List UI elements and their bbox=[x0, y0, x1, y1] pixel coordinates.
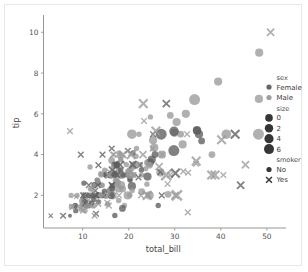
data-point bbox=[68, 193, 73, 198]
data-point bbox=[127, 129, 137, 139]
legend-marker bbox=[266, 85, 271, 90]
x-tick-label: 10 bbox=[78, 232, 88, 241]
data-point bbox=[198, 138, 205, 145]
figure: 1020304050246810 total_billtip sexFemale… bbox=[0, 0, 308, 272]
legend-entry-label[interactable]: Yes bbox=[276, 176, 289, 184]
data-point bbox=[185, 209, 191, 215]
data-point bbox=[143, 173, 151, 181]
data-point bbox=[130, 188, 135, 193]
data-point bbox=[98, 172, 103, 177]
data-point bbox=[222, 129, 232, 139]
data-point bbox=[87, 164, 92, 169]
y-axis-label: tip bbox=[11, 118, 21, 129]
legend-entry-label[interactable]: Male bbox=[277, 94, 294, 102]
legend-marker bbox=[265, 124, 273, 132]
data-point bbox=[146, 162, 153, 169]
data-point bbox=[95, 178, 100, 183]
data-point bbox=[112, 213, 117, 218]
data-point bbox=[182, 110, 190, 118]
data-point bbox=[159, 193, 165, 199]
legend-title: size bbox=[277, 105, 290, 113]
data-point bbox=[214, 78, 222, 86]
data-points bbox=[49, 29, 275, 219]
legend-entry-label[interactable]: 6 bbox=[277, 146, 282, 154]
data-point bbox=[180, 168, 186, 174]
y-tick-label: 2 bbox=[34, 191, 39, 200]
data-point bbox=[168, 145, 179, 156]
legend-entry-label[interactable]: 2 bbox=[277, 125, 281, 133]
legend-title: smoker bbox=[277, 156, 302, 164]
data-point bbox=[173, 118, 181, 126]
axes-spines bbox=[44, 15, 287, 228]
y-tick-label: 10 bbox=[29, 28, 39, 37]
data-point bbox=[179, 140, 187, 148]
x-axis-label: total_bill bbox=[146, 244, 181, 254]
data-point bbox=[163, 100, 170, 107]
legend-marker bbox=[266, 167, 271, 172]
legend-title: sex bbox=[277, 74, 288, 82]
data-point bbox=[242, 161, 249, 168]
data-point bbox=[141, 118, 147, 124]
data-point bbox=[165, 181, 171, 187]
data-point bbox=[67, 128, 73, 134]
data-point bbox=[136, 132, 141, 137]
y-tick-label: 4 bbox=[34, 150, 39, 159]
data-point bbox=[68, 214, 72, 218]
data-point bbox=[139, 151, 146, 158]
data-point bbox=[193, 127, 201, 135]
data-point bbox=[253, 129, 264, 140]
data-point bbox=[49, 214, 53, 218]
data-point bbox=[92, 213, 98, 219]
data-point bbox=[144, 181, 149, 186]
data-point bbox=[116, 198, 121, 203]
data-point bbox=[185, 170, 191, 176]
scatter-plot: 1020304050246810 total_billtip sexFemale… bbox=[0, 0, 308, 272]
data-point bbox=[139, 167, 144, 172]
legend-entry-label[interactable]: No bbox=[277, 166, 287, 174]
data-point bbox=[139, 99, 148, 108]
data-point bbox=[237, 182, 244, 189]
legend-entry-label[interactable]: 4 bbox=[277, 135, 282, 143]
data-point bbox=[255, 95, 263, 103]
data-point bbox=[255, 49, 263, 57]
legend-entry-label[interactable]: 0 bbox=[277, 114, 281, 122]
data-point bbox=[156, 203, 161, 208]
x-tick-label: 20 bbox=[124, 232, 134, 241]
x-tick-label: 40 bbox=[216, 232, 226, 241]
data-point bbox=[119, 205, 126, 212]
data-point bbox=[83, 203, 88, 208]
data-point bbox=[209, 151, 216, 158]
data-point bbox=[119, 186, 126, 193]
data-point bbox=[96, 162, 102, 168]
legend-marker bbox=[265, 114, 273, 122]
x-tick-label: 50 bbox=[262, 232, 272, 241]
data-point bbox=[172, 190, 182, 200]
data-point bbox=[60, 213, 66, 219]
data-point bbox=[100, 152, 106, 158]
data-point bbox=[120, 172, 125, 177]
legend-marker bbox=[266, 95, 271, 100]
legend-entry-label[interactable]: Female bbox=[277, 84, 302, 92]
data-point bbox=[116, 193, 122, 199]
data-point bbox=[221, 172, 227, 178]
legend-marker bbox=[264, 144, 274, 154]
y-tick-label: 6 bbox=[34, 110, 39, 119]
legend-marker bbox=[264, 134, 273, 143]
data-point bbox=[127, 171, 135, 179]
data-point bbox=[78, 152, 84, 158]
data-point bbox=[149, 136, 157, 144]
y-tick-label: 8 bbox=[34, 69, 39, 78]
data-point bbox=[267, 29, 274, 36]
legend-marker bbox=[266, 177, 272, 183]
data-point bbox=[167, 112, 174, 119]
data-point bbox=[184, 131, 190, 137]
legend[interactable]: sexFemaleMalesize0246smokerNoYes bbox=[264, 74, 302, 184]
data-point bbox=[231, 130, 240, 139]
x-tick-label: 30 bbox=[170, 232, 180, 241]
data-point bbox=[189, 94, 200, 105]
data-point bbox=[165, 191, 172, 198]
data-point bbox=[148, 114, 153, 119]
data-point bbox=[169, 127, 179, 137]
data-point bbox=[109, 146, 115, 152]
